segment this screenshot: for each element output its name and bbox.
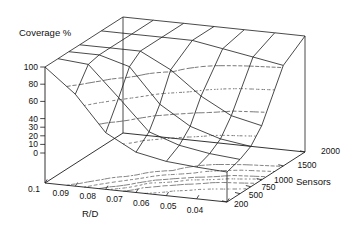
surface-contour-lines (67, 66, 283, 144)
y-tick-label: 1500 (298, 160, 317, 170)
x-tick-label: 0.09 (53, 188, 70, 198)
x-axis-title: R/D (82, 209, 98, 219)
z-tick-label: 100 (24, 62, 38, 72)
y-tick-label: 1000 (274, 175, 293, 185)
z-tick-label: 0 (33, 148, 38, 158)
z-tick-label: 40 (29, 114, 39, 124)
y-tick-label: 2000 (321, 146, 340, 156)
x-tick-label: 0.04 (187, 205, 204, 215)
z-tick-label: 80 (29, 79, 39, 89)
x-tick-label: 0.08 (79, 191, 96, 201)
x-tick-label: 0.06 (133, 198, 150, 208)
y-axis-title: Sensors (296, 177, 331, 187)
tick-labels: 01020304060801000.10.090.080.070.060.050… (24, 62, 340, 215)
coverage-surface-plot: 01020304060801000.10.090.080.070.060.050… (0, 0, 356, 233)
y-tick-label: 200 (234, 199, 248, 209)
x-tick-label: 0.07 (106, 194, 123, 204)
z-tick-label: 30 (29, 122, 39, 132)
z-tick-label: 10 (29, 139, 39, 149)
x-tick-label: 0.05 (160, 201, 177, 211)
z-axis-title: Coverage % (19, 28, 71, 38)
wireframe-mesh (45, 17, 305, 172)
pedestal-box (45, 17, 305, 202)
z-tick-label: 20 (29, 131, 39, 141)
x-tick-label: 0.1 (28, 184, 40, 194)
z-tick-label: 60 (29, 96, 39, 106)
